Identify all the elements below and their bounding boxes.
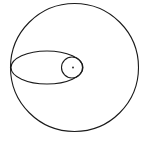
center-point <box>72 67 74 69</box>
geometry-diagram <box>0 0 144 143</box>
diagram-background <box>0 0 144 143</box>
